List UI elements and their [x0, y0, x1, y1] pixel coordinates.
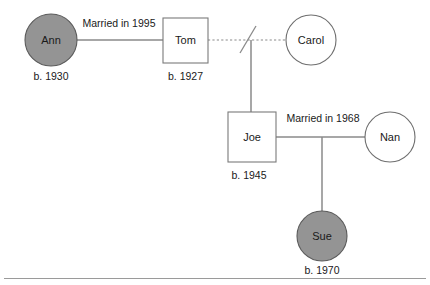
person-birth-ann: b. 1930	[33, 70, 68, 82]
person-name-nan: Nan	[380, 131, 400, 143]
person-name-carol: Carol	[298, 34, 324, 46]
person-name-ann: Ann	[41, 34, 61, 46]
genogram-canvas: Ann b. 1930 Married in 1995 Tom b. 1927 …	[0, 0, 430, 285]
person-name-tom: Tom	[175, 34, 196, 46]
person-birth-sue: b. 1970	[304, 264, 339, 276]
person-name-joe: Joe	[243, 131, 261, 143]
person-name-sue: Sue	[312, 230, 332, 242]
relationship-label-ann-tom: Married in 1995	[83, 17, 156, 29]
relationship-label-joe-nan: Married in 1968	[287, 112, 360, 124]
person-birth-tom: b. 1927	[168, 70, 203, 82]
person-birth-joe: b. 1945	[231, 169, 266, 181]
